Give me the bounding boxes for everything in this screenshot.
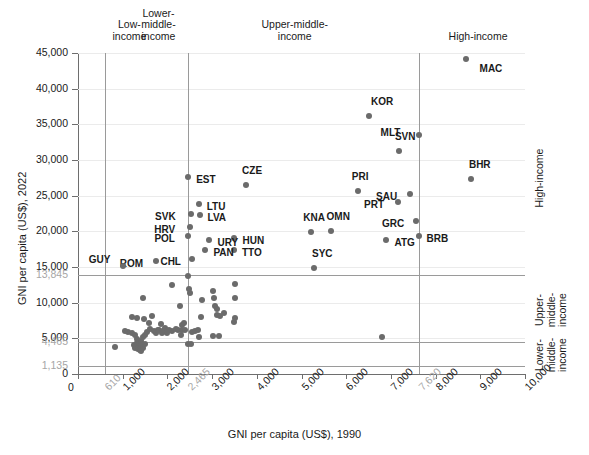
data-point[interactable] <box>169 282 175 288</box>
data-point-cze[interactable] <box>243 182 249 188</box>
data-point[interactable] <box>112 344 118 350</box>
data-point-label-pol: POL <box>154 233 175 244</box>
y-threshold-label: 1,135 <box>0 359 68 371</box>
data-point-bhr[interactable] <box>468 176 474 182</box>
data-point-label-kna: KNA <box>303 212 325 223</box>
data-point-label-est: EST <box>196 174 215 185</box>
data-point-brb[interactable] <box>416 233 422 239</box>
data-point[interactable] <box>187 290 193 296</box>
y-axis-tick <box>72 124 78 125</box>
data-point-est[interactable] <box>185 174 191 180</box>
y-tick-label: 45,000 <box>0 46 68 58</box>
data-point[interactable] <box>195 327 201 333</box>
data-point-label-omn: OMN <box>327 211 350 222</box>
gridline-horizontal <box>78 267 525 268</box>
data-point-label-syc: SYC <box>312 248 333 259</box>
data-point-chl[interactable] <box>189 256 195 262</box>
data-point-mlt[interactable] <box>416 132 422 138</box>
x-axis-tick <box>302 374 303 379</box>
data-point[interactable] <box>196 334 202 340</box>
data-point[interactable] <box>177 303 183 309</box>
data-point-pan[interactable] <box>202 247 208 253</box>
data-point-label-brb: BRB <box>427 233 449 244</box>
data-point[interactable] <box>379 334 385 340</box>
data-point-svk[interactable] <box>188 211 194 217</box>
y-axis-tick <box>72 53 78 54</box>
data-point-label-mac: MAC <box>480 63 503 74</box>
data-point-kor[interactable] <box>366 113 372 119</box>
y-tick-label: 30,000 <box>0 153 68 165</box>
data-point[interactable] <box>142 341 148 347</box>
data-point-lva[interactable] <box>197 212 203 218</box>
data-point[interactable] <box>232 295 238 301</box>
data-point[interactable] <box>146 320 152 326</box>
data-point-label-svk: SVK <box>155 211 176 222</box>
y-tick-label: 10,000 <box>0 296 68 308</box>
data-point-label-kor: KOR <box>371 96 393 107</box>
data-point-svn[interactable] <box>396 148 402 154</box>
data-point-ury[interactable] <box>206 237 212 243</box>
y-tick-label: 35,000 <box>0 117 68 129</box>
gridline-horizontal <box>78 196 525 197</box>
data-point-rom[interactable] <box>153 258 159 264</box>
data-point-hrv[interactable] <box>187 224 193 230</box>
data-point-label-lva: LVA <box>208 212 227 223</box>
top-income-category-label: Upper-middle- income <box>240 19 350 42</box>
data-point-pol[interactable] <box>185 233 191 239</box>
gridline-horizontal <box>78 231 525 232</box>
data-point-label-prt: PRT <box>364 199 384 210</box>
data-point[interactable] <box>181 320 187 326</box>
data-point[interactable] <box>210 288 216 294</box>
data-point-ltu[interactable] <box>196 201 202 207</box>
data-point-pri[interactable] <box>355 188 361 194</box>
y-tick-label: 40,000 <box>0 82 68 94</box>
data-point[interactable] <box>221 310 227 316</box>
gridline-horizontal <box>78 89 525 90</box>
data-point[interactable] <box>232 281 238 287</box>
income-threshold-line-vertical <box>105 53 106 374</box>
data-point-atg[interactable] <box>383 237 389 243</box>
data-point-label-svn: SVN <box>395 131 416 142</box>
data-point-label-tto: TTO <box>242 247 262 258</box>
income-threshold-line-horizontal <box>78 366 525 367</box>
data-point[interactable] <box>216 333 222 339</box>
income-threshold-line-vertical <box>419 53 420 374</box>
data-point-label-bhr: BHR <box>469 159 491 170</box>
data-point-sau[interactable] <box>407 191 413 197</box>
y-tick-label: 20,000 <box>0 224 68 236</box>
chart-canvas: MACKORMLTSVNBHRCZEESTSAUPRIPRTLTULVASVKG… <box>0 0 589 455</box>
y-axis-tick <box>72 338 78 339</box>
y-axis-tick <box>72 196 78 197</box>
y-axis-tick <box>72 160 78 161</box>
data-point-omn[interactable] <box>328 228 334 234</box>
x-axis-title: GNI per capita (US$), 1990 <box>0 428 589 440</box>
data-point-syc[interactable] <box>311 265 317 271</box>
gridline-horizontal <box>78 160 525 161</box>
data-point[interactable] <box>185 273 191 279</box>
data-point[interactable] <box>140 295 146 301</box>
data-point[interactable] <box>149 313 155 319</box>
data-point[interactable] <box>199 297 205 303</box>
gridline-horizontal <box>78 303 525 304</box>
data-point[interactable] <box>134 315 140 321</box>
data-point-label-guy: GUY <box>89 254 111 265</box>
data-point-label-cze: CZE <box>242 165 262 176</box>
x-axis-tick <box>257 374 258 379</box>
y-axis-tick <box>72 267 78 268</box>
y-axis-tick <box>72 231 78 232</box>
data-point[interactable] <box>188 341 194 347</box>
x-tick-label: 0 <box>68 381 74 393</box>
data-point[interactable] <box>198 314 204 320</box>
data-point-kna[interactable] <box>308 229 314 235</box>
data-point[interactable] <box>231 319 237 325</box>
y-axis-tick <box>72 89 78 90</box>
data-point-mac[interactable] <box>463 56 469 62</box>
right-income-category-label: High-income <box>534 130 546 226</box>
data-point-guy[interactable] <box>120 263 126 269</box>
data-point[interactable] <box>211 295 217 301</box>
y-threshold-label: 13,845 <box>0 268 68 280</box>
data-point-label-grc: GRC <box>382 218 404 229</box>
y-tick-label: 25,000 <box>0 189 68 201</box>
data-point-prt[interactable] <box>395 199 401 205</box>
x-axis-tick <box>123 374 124 379</box>
